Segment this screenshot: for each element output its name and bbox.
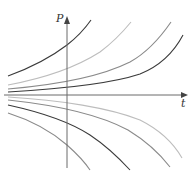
solution-curve-lower-2	[8, 100, 170, 167]
solution-curves-diagram: P t	[0, 0, 192, 181]
solution-curve-lower-4	[8, 113, 90, 170]
p-axis-arrow-icon	[64, 16, 70, 24]
solution-curve-lower-1	[8, 97, 182, 158]
solution-curve-upper-2	[8, 22, 131, 85]
solution-curve-upper-3	[8, 22, 171, 89]
solution-curve-upper-4	[8, 35, 183, 92]
p-axis-label: P	[55, 12, 64, 25]
solution-curve-upper-1	[8, 20, 91, 76]
t-axis-label: t	[181, 97, 186, 110]
solution-curve-lower-3	[8, 105, 130, 170]
